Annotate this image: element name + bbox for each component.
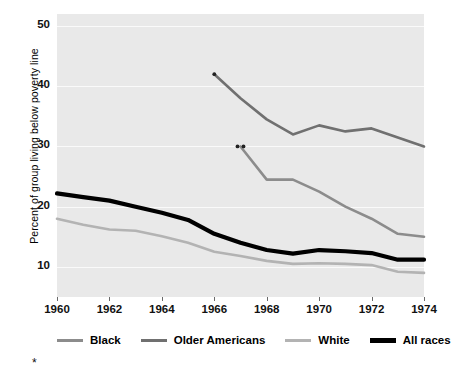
x-tick-label-1962: 1962 <box>86 303 132 315</box>
x-tick-mark-1968 <box>267 297 268 301</box>
legend-swatch-icon <box>285 339 311 342</box>
footnote-asterisk: * <box>32 356 37 366</box>
x-tick-mark-1970 <box>319 297 320 301</box>
y-tick-label-50: 50 <box>20 18 50 30</box>
legend-label: Black <box>90 334 121 346</box>
gridline-y-10 <box>57 267 424 268</box>
x-tick-mark-1966 <box>214 297 215 301</box>
x-tick-label-1964: 1964 <box>139 303 185 315</box>
x-tick-mark-1962 <box>109 297 110 301</box>
legend-item-older-americans[interactable]: Older Americans <box>141 334 266 346</box>
x-tick-label-1974: 1974 <box>401 303 447 315</box>
legend-label: Older Americans <box>174 334 266 346</box>
legend-item-black[interactable]: Black <box>57 334 121 346</box>
legend-swatch-icon <box>141 339 167 342</box>
x-tick-label-1960: 1960 <box>34 303 80 315</box>
legend-item-white[interactable]: White <box>285 334 349 346</box>
x-tick-label-1968: 1968 <box>244 303 290 315</box>
legend-item-all-races[interactable]: All races <box>370 334 451 346</box>
plot-area-background <box>57 14 424 297</box>
y-tick-label-10: 10 <box>20 259 50 271</box>
x-tick-mark-1974 <box>424 297 425 301</box>
x-tick-label-1966: 1966 <box>191 303 237 315</box>
legend-swatch-icon <box>57 339 83 342</box>
x-tick-label-1970: 1970 <box>296 303 342 315</box>
x-tick-mark-1960 <box>57 297 58 301</box>
x-tick-mark-1964 <box>162 297 163 301</box>
x-tick-mark-1972 <box>372 297 373 301</box>
chart-legend: BlackOlder AmericansWhiteAll races <box>57 330 437 350</box>
gridline-y-40 <box>57 86 424 87</box>
gridline-y-50 <box>57 26 424 27</box>
y-tick-label-30: 30 <box>20 138 50 150</box>
y-tick-label-40: 40 <box>20 78 50 90</box>
y-tick-label-20: 20 <box>20 199 50 211</box>
legend-swatch-icon <box>370 338 396 343</box>
gridline-y-30 <box>57 146 424 147</box>
legend-label: All races <box>403 334 451 346</box>
gridline-y-20 <box>57 207 424 208</box>
legend-label: White <box>318 334 349 346</box>
x-tick-label-1972: 1972 <box>349 303 395 315</box>
